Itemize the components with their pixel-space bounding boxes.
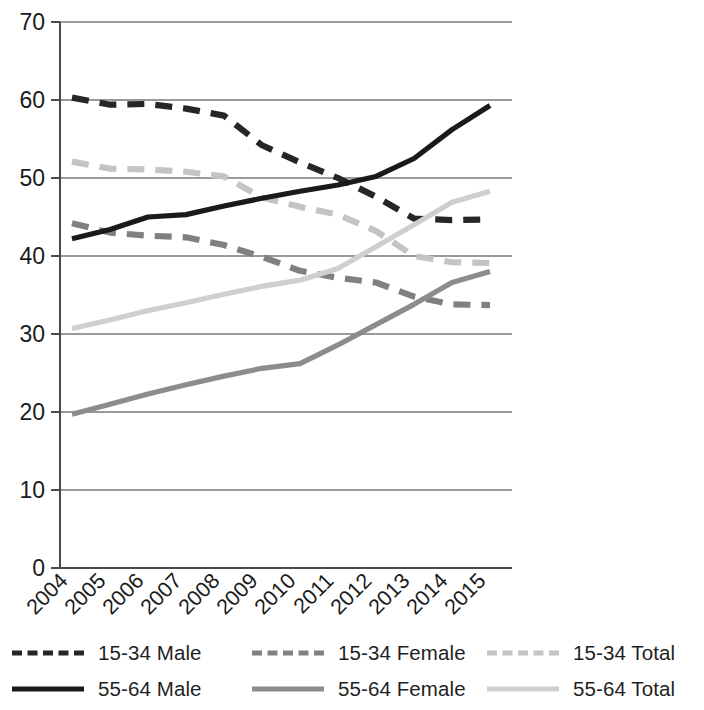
legend-label: 15-34 Total (573, 643, 675, 664)
legend-swatch-solid-icon (487, 680, 559, 698)
x-axis-tick-group: 2014 (402, 569, 453, 620)
line-chart: 0102030405060702004200520062007200820092… (0, 0, 704, 710)
series-line-15-34-female[interactable] (72, 223, 490, 305)
y-axis-tick-label: 40 (19, 243, 45, 269)
legend-swatch-dashed-icon (252, 644, 324, 662)
x-axis-tick-label: 2010 (250, 569, 301, 620)
y-axis-tick-label: 20 (19, 399, 45, 425)
y-axis-tick-label: 30 (19, 321, 45, 347)
x-axis-tick-label: 2009 (212, 569, 263, 620)
x-axis-tick-group: 2011 (289, 569, 339, 619)
series-line-15-34-male[interactable] (72, 98, 490, 220)
legend-item-55-64-male[interactable]: 55-64 Male (12, 674, 202, 704)
series-line-55-64-female[interactable] (72, 272, 490, 415)
x-axis-tick-label: 2008 (174, 569, 225, 620)
legend-item-15-34-total[interactable]: 15-34 Total (487, 638, 675, 668)
legend-item-15-34-male[interactable]: 15-34 Male (12, 638, 202, 668)
legend-label: 55-64 Male (98, 679, 202, 700)
y-axis-tick-label: 50 (19, 165, 45, 191)
legend-swatch-solid-icon (12, 680, 84, 698)
legend-label: 55-64 Total (573, 679, 675, 700)
legend-swatch-dashed-icon (487, 644, 559, 662)
x-axis-tick-group: 2009 (212, 569, 263, 620)
y-axis-tick-label: 70 (19, 9, 45, 35)
legend-label: 15-34 Female (338, 643, 466, 664)
x-axis-tick-group: 2015 (440, 569, 491, 620)
x-axis-tick-group: 2007 (136, 569, 187, 620)
legend-swatch-solid-icon (252, 680, 324, 698)
x-axis-tick-group: 2005 (60, 569, 111, 620)
chart-legend: 15-34 Male 15-34 Female 15-34 Total 55-6… (0, 636, 704, 710)
legend-item-15-34-female[interactable]: 15-34 Female (252, 638, 466, 668)
x-axis-tick-label: 2014 (402, 569, 453, 620)
plot-area: 0102030405060702004200520062007200820092… (0, 0, 704, 625)
y-axis-tick-label: 60 (19, 87, 45, 113)
x-axis-tick-label: 2012 (326, 569, 377, 620)
legend-item-55-64-female[interactable]: 55-64 Female (252, 674, 466, 704)
x-axis-tick-group: 2012 (326, 569, 377, 620)
x-axis-tick-group: 2010 (250, 569, 301, 620)
y-axis-tick-label: 10 (19, 477, 45, 503)
x-axis-tick-group: 2008 (174, 569, 225, 620)
x-axis-tick-label: 2005 (60, 569, 111, 620)
x-axis-tick-label: 2011 (289, 569, 339, 619)
x-axis-tick-group: 2004 (22, 569, 73, 620)
legend-item-55-64-total[interactable]: 55-64 Total (487, 674, 675, 704)
x-axis-tick-group: 2013 (364, 569, 415, 620)
legend-swatch-dashed-icon (12, 644, 84, 662)
series-line-15-34-total[interactable] (72, 162, 490, 263)
x-axis-tick-label: 2007 (136, 569, 187, 620)
x-axis-tick-label: 2013 (364, 569, 415, 620)
x-axis-tick-label: 2004 (22, 569, 73, 620)
legend-label: 55-64 Female (338, 679, 466, 700)
x-axis-tick-label: 2015 (440, 569, 491, 620)
x-axis-tick-label: 2006 (98, 569, 149, 620)
legend-label: 15-34 Male (98, 643, 202, 664)
y-axis-tick-label: 0 (32, 555, 45, 581)
x-axis-tick-group: 2006 (98, 569, 149, 620)
